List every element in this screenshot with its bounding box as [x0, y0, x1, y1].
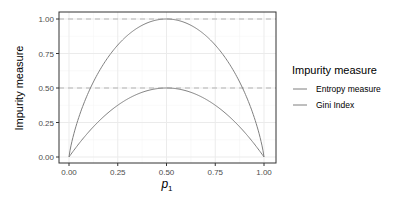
y-axis: 0.000.250.500.751.00 — [38, 15, 59, 162]
x-tick-label: 1.00 — [256, 168, 272, 177]
y-tick-label: 1.00 — [38, 15, 54, 24]
y-axis-title: Impurity measure — [13, 46, 25, 131]
legend-item-entropy: Entropy measure — [293, 84, 381, 94]
legend: Impurity measure Entropy measure Gini In… — [292, 64, 381, 110]
y-tick-label: 0.25 — [38, 119, 54, 128]
x-tick-label: 0.50 — [159, 168, 175, 177]
y-tick-label: 0.50 — [38, 84, 54, 93]
y-tick-label: 0.00 — [38, 153, 54, 162]
x-tick-label: 0.00 — [61, 168, 77, 177]
legend-label-gini: Gini Index — [316, 100, 355, 110]
x-axis-title-subscript: 1 — [168, 184, 173, 193]
legend-title: Impurity measure — [292, 64, 377, 76]
x-tick-label: 0.75 — [207, 168, 223, 177]
x-axis: 0.000.250.500.751.00 — [61, 163, 272, 177]
impurity-chart: 0.000.250.500.751.00 0.000.250.500.751.0… — [0, 0, 407, 199]
x-tick-label: 0.25 — [110, 168, 126, 177]
x-axis-title: p1 — [160, 177, 173, 193]
legend-label-entropy: Entropy measure — [316, 84, 381, 94]
plot-panel — [59, 12, 276, 163]
y-tick-label: 0.75 — [38, 50, 54, 59]
legend-item-gini: Gini Index — [293, 100, 355, 110]
